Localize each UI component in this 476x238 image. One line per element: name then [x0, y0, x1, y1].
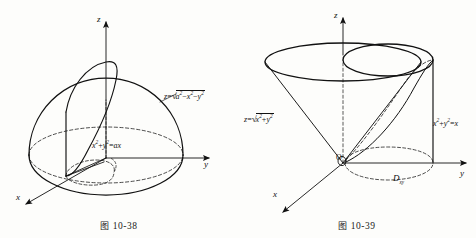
y-axis-label: y	[460, 169, 464, 178]
figure-10-38-caption: 图 10-38	[0, 219, 238, 232]
figure-page: z y x z=√a2−x2−y2 x2+y2=ax 图 10-38	[0, 0, 476, 238]
cylinder-equation-label: x2+y2=ax	[92, 140, 121, 150]
y-axis-label: y	[204, 160, 208, 169]
cone-eq-radical: √x2+y2	[252, 113, 274, 124]
sphere-eq-radical: √a2−x2−y2	[172, 90, 205, 101]
cone-eq-radicand: x2+y2	[256, 113, 274, 124]
origin-label: O	[336, 154, 342, 162]
cylinder-base-right-dashed	[110, 158, 116, 172]
region-dxy-front-dashed	[345, 163, 433, 180]
region-subscript: xy	[400, 179, 405, 185]
sphere-equation-label: z=√a2−x2−y2	[164, 90, 205, 101]
caption-cjk-char: 图	[100, 221, 110, 231]
radius-segment-b	[66, 162, 104, 176]
x-axis-label: x	[273, 190, 277, 199]
figure-10-38-drawing	[0, 0, 238, 238]
caption-number: 10-38	[113, 221, 138, 231]
x-axis-label: x	[16, 193, 20, 202]
figure-10-39: z y x z=√x2+y2 x2+y2=x Dxy O 图 10-39	[238, 0, 476, 238]
cone-right-generatrix	[343, 62, 421, 163]
cylinder-top-rim-ellipse	[343, 44, 433, 76]
z-axis-label: z	[97, 15, 101, 24]
figure-10-39-caption: 图 10-39	[238, 219, 476, 232]
cone-equation-label: z=√x2+y2	[244, 113, 274, 124]
z-axis-label: z	[334, 11, 338, 20]
cylinder-base-front-dashed	[66, 172, 114, 185]
caption-cjk-char: 图	[338, 221, 348, 231]
equator-front-dashed	[29, 155, 183, 183]
sphere-eq-radicand: a2−x2−y2	[176, 90, 205, 101]
x-axis-line	[283, 163, 343, 212]
cone-left-generatrix	[265, 62, 343, 163]
cone-cylinder-intersection-back	[346, 60, 433, 160]
caption-number: 10-39	[351, 221, 376, 231]
figure-10-38: z y x z=√a2−x2−y2 x2+y2=ax 图 10-38	[0, 0, 238, 238]
region-dxy-label: Dxy	[393, 174, 404, 185]
cylinder-equation-label: x2+y2=x	[433, 118, 458, 128]
